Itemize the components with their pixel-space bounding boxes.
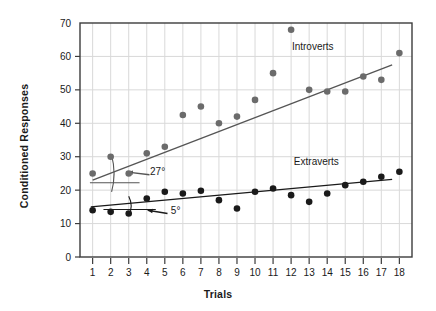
- x-tick-label: 12: [286, 267, 298, 278]
- data-point-introverts: [89, 170, 96, 177]
- y-tick-label: 70: [60, 18, 72, 29]
- y-tick-label: 0: [65, 252, 71, 263]
- x-tick-label: 6: [180, 267, 186, 278]
- data-point-extraverts: [378, 173, 385, 180]
- extraverts-angle: 5°: [171, 205, 181, 216]
- data-point-introverts: [396, 50, 403, 57]
- x-tick-label: 10: [249, 267, 261, 278]
- x-tick-label: 5: [162, 267, 168, 278]
- data-point-extraverts: [198, 188, 205, 195]
- data-point-introverts: [324, 88, 331, 95]
- data-point-introverts: [252, 97, 259, 104]
- x-tick-label: 18: [394, 267, 406, 278]
- data-point-introverts: [270, 70, 277, 77]
- data-point-introverts: [125, 170, 132, 177]
- plot-border: [80, 23, 412, 257]
- data-point-extraverts: [143, 195, 150, 202]
- scatter-plot: 0102030405060701234567891011121314151617…: [0, 0, 436, 311]
- y-tick-label: 60: [60, 51, 72, 62]
- x-tick-label: 13: [304, 267, 316, 278]
- data-point-extraverts: [396, 168, 403, 175]
- data-point-introverts: [360, 73, 367, 80]
- y-tick-label: 50: [60, 84, 72, 95]
- extraverts-label: Extraverts: [294, 156, 339, 167]
- data-point-extraverts: [270, 185, 277, 192]
- data-point-introverts: [306, 87, 313, 94]
- data-point-extraverts: [252, 189, 259, 196]
- x-tick-label: 17: [376, 267, 388, 278]
- data-point-introverts: [180, 112, 187, 119]
- data-point-introverts: [234, 113, 241, 120]
- data-point-extraverts: [324, 190, 331, 197]
- y-tick-label: 10: [60, 218, 72, 229]
- data-point-extraverts: [360, 178, 367, 185]
- y-tick-label: 20: [60, 185, 72, 196]
- chart-figure: Conditioned Responses Trials 01020304050…: [0, 0, 436, 311]
- data-point-extraverts: [180, 190, 187, 197]
- x-tick-label: 7: [198, 267, 204, 278]
- data-point-introverts: [107, 153, 114, 160]
- x-tick-label: 14: [322, 267, 334, 278]
- data-point-extraverts: [125, 210, 132, 217]
- x-tick-label: 4: [144, 267, 150, 278]
- introverts-label: Introverts: [292, 41, 334, 52]
- trend-line-introverts: [93, 65, 393, 180]
- x-tick-label: 2: [108, 267, 114, 278]
- x-tick-label: 16: [358, 267, 370, 278]
- data-point-introverts: [378, 77, 385, 84]
- data-point-introverts: [216, 120, 223, 127]
- plot-frame: [80, 23, 412, 257]
- data-point-extraverts: [306, 199, 313, 206]
- data-point-extraverts: [342, 182, 349, 189]
- x-tick-label: 8: [216, 267, 222, 278]
- data-point-extraverts: [216, 197, 223, 204]
- y-tick-label: 30: [60, 151, 72, 162]
- data-point-introverts: [342, 88, 349, 95]
- x-tick-label: 11: [268, 267, 279, 278]
- x-tick-label: 15: [340, 267, 352, 278]
- x-tick-label: 1: [90, 267, 96, 278]
- x-tick-label: 3: [126, 267, 132, 278]
- data-point-introverts: [198, 103, 205, 110]
- data-point-extraverts: [234, 205, 241, 212]
- data-point-introverts: [162, 143, 169, 150]
- y-tick-label: 40: [60, 118, 72, 129]
- x-tick-label: 9: [234, 267, 240, 278]
- introverts-angle: 27°: [150, 166, 165, 177]
- data-point-extraverts: [107, 209, 114, 216]
- data-point-introverts: [143, 150, 150, 157]
- data-point-extraverts: [162, 189, 169, 196]
- data-point-introverts: [288, 26, 295, 33]
- introverts-angle-marker-arc: [112, 155, 115, 192]
- data-point-extraverts: [288, 192, 295, 199]
- data-point-extraverts: [89, 207, 96, 214]
- gridlines: [80, 23, 412, 257]
